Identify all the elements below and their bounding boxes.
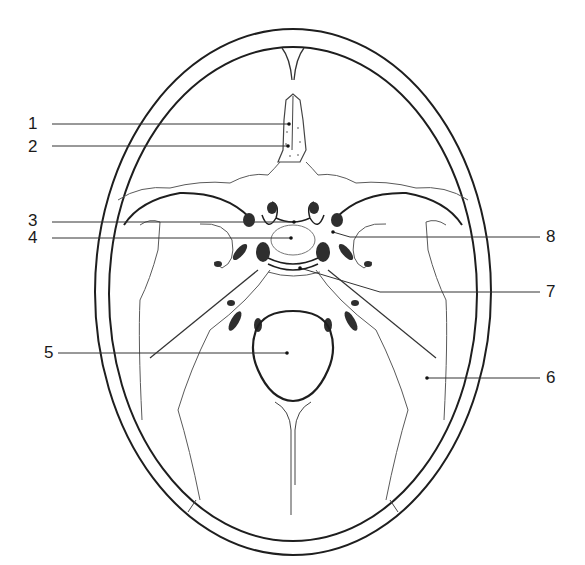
label-5: 5 [44,344,53,361]
label-3: 3 [28,212,37,229]
dorsum-sellae [268,258,318,270]
label-6: 6 [546,369,555,386]
petrous-ridge-left [150,270,258,358]
internal-occipital-crest [275,402,311,515]
label-1: 1 [28,115,37,132]
label-7: 7 [546,283,555,300]
leader-7 [300,268,540,292]
frontal-crest [282,48,304,80]
label-4: 4 [28,229,37,246]
occipital-suture-right [316,270,408,500]
occipital-suture-left [178,270,270,500]
clivus-upper [268,272,320,276]
hypophyseal-fossa [271,225,315,255]
skull-base-diagram [0,0,585,565]
leader-8 [333,232,540,237]
label-8: 8 [546,228,555,245]
petrous-ridge-right [328,270,436,358]
foramen-magnum [253,311,333,401]
lesser-wing-right [336,193,462,225]
crista-galli-cribriform [278,94,306,162]
label-2: 2 [28,138,37,155]
lesser-wing-left [124,193,250,225]
middle-fossa-suture-left [139,221,160,420]
middle-fossa-suture-right [426,221,447,420]
leader-dots [285,122,429,380]
